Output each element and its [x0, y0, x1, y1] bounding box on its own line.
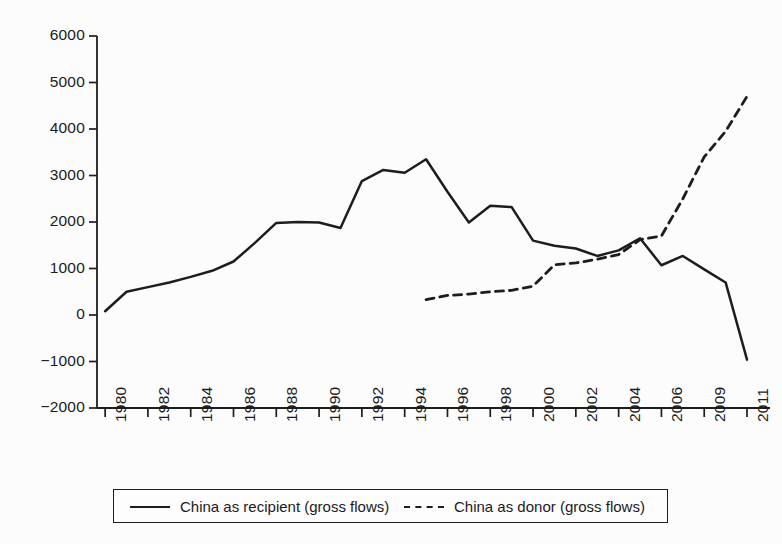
chart-series-group	[105, 96, 747, 359]
x-axis-tick-label: 2004	[626, 387, 644, 422]
x-axis-tick-label: 2006	[668, 387, 686, 422]
y-axis-tick-label: 2000	[15, 212, 85, 230]
legend-line-dashed-icon	[404, 500, 444, 512]
y-axis-ticks	[89, 36, 97, 408]
x-axis-tick-label: 1996	[454, 387, 472, 422]
legend-line-solid-icon	[130, 500, 170, 512]
series-line-donor	[426, 96, 747, 299]
y-axis-tick-label: 0	[15, 305, 85, 323]
x-axis-tick-label: 1990	[326, 387, 344, 422]
y-axis-tick-label: 4000	[15, 119, 85, 137]
series-line-recipient	[105, 159, 747, 359]
x-axis-tick-label: 1982	[155, 387, 173, 422]
chart-figure: 6000500040003000200010000−1000−2000 1980…	[0, 0, 782, 544]
x-axis-tick-label: 1998	[497, 387, 515, 422]
y-axis-tick-label: 3000	[15, 166, 85, 184]
x-axis-tick-label: 2000	[540, 387, 558, 422]
y-axis-tick-label: −1000	[15, 352, 85, 370]
chart-legend: China as recipient (gross flows) China a…	[113, 489, 668, 523]
x-axis-tick-label: 1992	[369, 387, 387, 422]
x-axis-tick-label: 1980	[112, 387, 130, 422]
line-chart-plot	[0, 0, 782, 544]
legend-entry-recipient: China as recipient (gross flows)	[130, 490, 389, 522]
y-axis-tick-label: 6000	[15, 26, 85, 44]
x-axis-tick-label: 1988	[283, 387, 301, 422]
x-axis-tick-label: 2011	[754, 388, 772, 422]
y-axis-tick-label: 1000	[15, 259, 85, 277]
x-axis-tick-label: 2002	[583, 387, 601, 422]
x-axis-tick-label: 2009	[711, 387, 729, 422]
legend-label-recipient: China as recipient (gross flows)	[180, 498, 389, 515]
x-axis-tick-label: 1994	[412, 387, 430, 422]
y-axis-tick-label: 5000	[15, 73, 85, 91]
legend-label-donor: China as donor (gross flows)	[454, 498, 645, 515]
legend-entry-donor: China as donor (gross flows)	[404, 490, 645, 522]
x-axis-tick-label: 1986	[241, 387, 259, 422]
y-axis-tick-label: −2000	[15, 398, 85, 416]
x-axis-tick-label: 1984	[198, 387, 216, 422]
